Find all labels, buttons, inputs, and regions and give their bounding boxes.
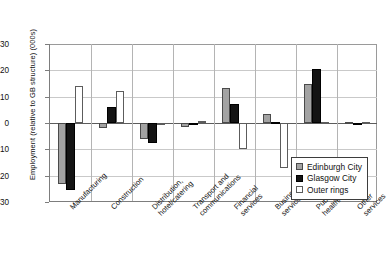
y-tick-mark	[45, 123, 49, 124]
bar-group	[58, 44, 83, 201]
bar-glasgow	[66, 123, 74, 190]
bar-edinburgh	[222, 88, 230, 123]
legend: Edinburgh CityGlasgow CityOuter rings	[291, 157, 368, 200]
y-tick-mark	[45, 176, 49, 177]
bar-glasgow	[189, 123, 197, 125]
legend-item-outer: Outer rings	[296, 184, 362, 196]
legend-item-glasgow: Glasgow City	[296, 173, 362, 185]
bar-edinburgh	[181, 123, 189, 127]
bar-outer	[157, 123, 165, 125]
bar-glasgow	[107, 107, 115, 123]
bar-glasgow	[230, 104, 238, 123]
bar-outer	[198, 121, 206, 123]
bar-outer	[280, 123, 288, 168]
y-tick-mark	[45, 70, 49, 71]
y-tick-label: -30	[0, 198, 9, 207]
bar-edinburgh	[345, 122, 353, 124]
bar-chart: Employment (relative to GB structure) (0…	[0, 0, 391, 277]
y-tick-label: -20	[0, 171, 9, 180]
y-axis-title: Employment (relative to GB structure) (0…	[28, 10, 37, 200]
bar-glasgow	[312, 69, 320, 123]
legend-label: Outer rings	[307, 185, 348, 195]
y-tick-label: 20	[0, 66, 9, 75]
y-tick-label: 0	[0, 119, 9, 128]
y-tick-label: 30	[0, 40, 9, 49]
bar-outer	[321, 122, 329, 124]
y-tick-label: -10	[0, 145, 9, 154]
bar-glasgow	[353, 123, 361, 125]
bar-group	[263, 44, 288, 201]
y-tick-mark	[45, 97, 49, 98]
y-tick-mark	[45, 44, 49, 45]
y-tick-mark	[45, 149, 49, 150]
legend-swatch-icon	[296, 175, 303, 182]
bar-outer	[362, 122, 370, 124]
bar-outer	[75, 86, 83, 123]
bar-glasgow	[148, 123, 156, 143]
legend-swatch-icon	[296, 186, 303, 193]
bar-outer	[239, 123, 247, 149]
bar-glasgow	[271, 122, 279, 124]
legend-label: Glasgow City	[307, 173, 356, 183]
bar-edinburgh	[99, 123, 107, 128]
bar-group	[140, 44, 165, 201]
legend-label: Edinburgh City	[307, 162, 362, 172]
x-axis-labels: ManufacturingConstructionDistribution,ho…	[49, 203, 377, 277]
bar-edinburgh	[263, 114, 271, 123]
bar-edinburgh	[58, 123, 66, 184]
bar-edinburgh	[140, 123, 148, 139]
y-tick-label: 10	[0, 92, 9, 101]
legend-item-edinburgh: Edinburgh City	[296, 161, 362, 173]
bar-edinburgh	[304, 84, 312, 123]
bar-outer	[116, 91, 124, 123]
legend-swatch-icon	[296, 163, 303, 170]
